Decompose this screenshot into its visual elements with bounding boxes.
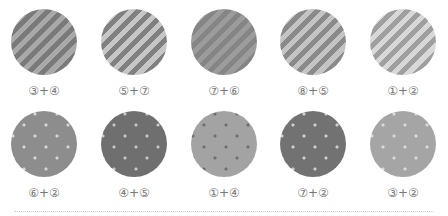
swatch-label: ①+④ <box>179 186 269 200</box>
swatch-8-5: ⑧+⑤ <box>280 9 346 109</box>
dotted-divider <box>14 211 434 212</box>
swatch-1-2: ①+② <box>370 9 436 109</box>
swatch-label: ⑧+⑤ <box>268 84 358 98</box>
dotted-circle <box>280 111 346 177</box>
swatch-label: ⑦+⑥ <box>179 84 269 98</box>
swatch-label: ④+⑤ <box>89 186 179 200</box>
dotted-circle <box>101 111 167 177</box>
swatch-7-6: ⑦+⑥ <box>191 9 257 109</box>
swatch-5-7: ⑤+⑦ <box>101 9 167 109</box>
swatch-3-4: ③+④ <box>11 9 77 109</box>
swatch-label: ⑦+② <box>268 186 358 200</box>
striped-swatch-row: ③+④ ⑤+⑦ ⑦+⑥ ⑧+⑤ ①+② <box>0 9 448 109</box>
swatch-1-4: ①+④ <box>191 111 257 211</box>
swatch-3-2: ③+② <box>370 111 436 211</box>
dotted-circle <box>11 111 77 177</box>
dotted-circle <box>370 111 436 177</box>
striped-circle <box>11 9 77 75</box>
swatch-label: ①+② <box>358 84 448 98</box>
striped-circle <box>101 9 167 75</box>
swatch-label: ⑥+② <box>0 186 89 200</box>
swatch-4-5: ④+⑤ <box>101 111 167 211</box>
striped-circle <box>370 9 436 75</box>
swatch-label: ⑤+⑦ <box>89 84 179 98</box>
dotted-circle <box>191 111 257 177</box>
striped-circle <box>280 9 346 75</box>
swatch-label: ③+② <box>358 186 448 200</box>
striped-circle <box>191 9 257 75</box>
swatch-6-2: ⑥+② <box>11 111 77 211</box>
swatch-7-2: ⑦+② <box>280 111 346 211</box>
swatch-label: ③+④ <box>0 84 89 98</box>
dotted-swatch-row: ⑥+② ④+⑤ ①+④ ⑦+② ③+② <box>0 111 448 211</box>
